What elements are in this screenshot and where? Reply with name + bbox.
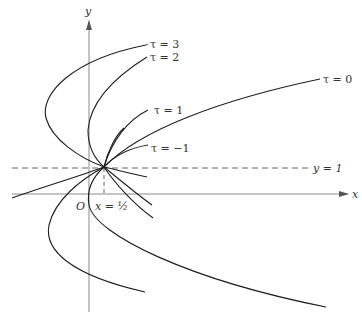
curve-tau-3 [12, 45, 146, 198]
label-tau-1: τ = 1 [154, 104, 183, 117]
characteristic-curves-diagram: x y O y = 1 x = ½ τ = 3 τ = 2 τ = 1 τ = … [0, 0, 362, 321]
label-tau-2: τ = 2 [150, 51, 179, 64]
curve-tau-0 [104, 79, 320, 167]
line-x-equals-half-label: x = ½ [95, 200, 128, 213]
leader-tau-3 [146, 44, 148, 45]
label-tau-neg1: τ = −1 [151, 142, 190, 155]
label-tau-3: τ = 3 [150, 38, 179, 51]
line-y-equals-1-label: y = 1 [312, 162, 342, 175]
x-axis-label: x [352, 188, 359, 201]
origin-label: O [76, 200, 85, 213]
curve-tau-2 [88, 57, 326, 307]
curve-branch-a [104, 128, 124, 167]
y-axis-label: y [84, 5, 92, 18]
label-tau-0: τ = 0 [323, 73, 352, 86]
curve-tau-3-lower [48, 167, 145, 292]
